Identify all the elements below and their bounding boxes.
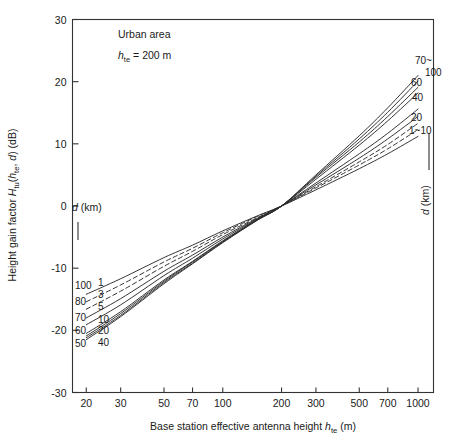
- hte-annotation: hte = 200 m: [118, 49, 172, 64]
- left-curve-label-outer: 50: [75, 338, 87, 349]
- curve-d-40: [86, 93, 418, 334]
- right-curve-label: 100: [425, 67, 442, 78]
- left-curve-label-outer: 100: [75, 280, 92, 291]
- right-curve-label: 70~: [415, 55, 432, 66]
- x-axis-title: Base station effective antenna height ht…: [150, 420, 356, 435]
- y-tick-label: 0: [61, 200, 67, 212]
- x-axis-tick-labels: 203050701002003005007001000: [80, 397, 429, 409]
- curve-d-60: [86, 81, 418, 338]
- x-axis-ticks: [86, 388, 418, 393]
- x-tick-label: 100: [214, 397, 232, 409]
- x-tick-label: 500: [350, 397, 368, 409]
- y-tick-label: 10: [55, 138, 67, 150]
- y-axis-tick-labels: -30-20-100102030: [51, 14, 66, 399]
- right-curve-label: 40: [412, 92, 424, 103]
- right-curve-label: 20: [411, 112, 423, 123]
- left-curve-label-inner: 40: [98, 337, 110, 348]
- x-tick-label: 300: [307, 397, 325, 409]
- curve-d-20: [86, 109, 418, 325]
- y-tick-label: -20: [51, 324, 66, 336]
- x-tick-label: 700: [379, 397, 397, 409]
- x-tick-label: 20: [80, 397, 92, 409]
- left-curve-label-outer: 60: [75, 325, 87, 336]
- curve-d-10: [86, 116, 418, 317]
- curve-d-5: [86, 123, 418, 309]
- x-tick-label: 1000: [406, 397, 430, 409]
- plot-frame: [73, 20, 434, 393]
- curve-d-3: [86, 130, 418, 302]
- right-d-km-label: d (km): [419, 185, 431, 215]
- left-curve-label-outer: 80: [75, 296, 87, 307]
- right-curve-labels: 70~1006040201~10: [409, 55, 442, 136]
- y-axis-title: Height gain factor Htu(hte, d) (dB): [6, 129, 21, 282]
- x-tick-label: 30: [115, 397, 127, 409]
- left-curve-label-outer: 70: [75, 312, 87, 323]
- curve-d-50: [86, 87, 418, 336]
- left-curve-label-inner: 10: [98, 314, 110, 325]
- chart-svg: 203050701002003005007001000 -30-20-10010…: [0, 0, 457, 445]
- left-curve-label-inner: 5: [98, 301, 104, 312]
- y-tick-label: -10: [51, 262, 66, 274]
- y-tick-label: 30: [55, 14, 67, 26]
- left-curve-label-inner: 20: [98, 325, 110, 336]
- x-tick-label: 70: [187, 397, 199, 409]
- x-tick-label: 200: [273, 397, 291, 409]
- left-d-km-label: d (km): [72, 201, 102, 213]
- right-curve-label: 60: [411, 77, 423, 88]
- left-curve-label-inner: 1: [98, 277, 104, 288]
- left-curve-label-inner: 3: [98, 289, 104, 300]
- x-tick-label: 50: [158, 397, 170, 409]
- height-gain-factor-chart: 203050701002003005007001000 -30-20-10010…: [0, 0, 457, 445]
- y-tick-label: -30: [51, 387, 66, 399]
- urban-area-annotation: Urban area: [118, 28, 171, 40]
- y-tick-label: 20: [55, 76, 67, 88]
- curve-group: [86, 75, 418, 339]
- left-curve-labels: 10080706050135102040: [75, 277, 110, 349]
